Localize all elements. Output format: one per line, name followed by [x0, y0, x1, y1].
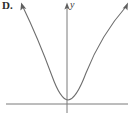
curve-left-arrowhead-icon [20, 3, 26, 11]
y-axis-label: y [70, 0, 74, 11]
choice-letter-label: D. [2, 0, 13, 12]
answer-choice-figure: D. y [0, 0, 134, 116]
parabola-plot [0, 0, 134, 116]
parabola-curve [23, 6, 127, 100]
